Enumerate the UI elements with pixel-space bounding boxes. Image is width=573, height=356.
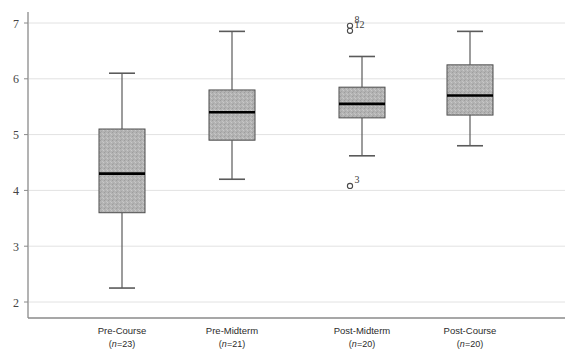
y-axis-ticks: 234567 [13, 17, 28, 310]
plot-area: 234567 8123 Pre-Course(n=23)Pre-Midterm(… [0, 0, 573, 356]
box-plot-item [209, 31, 255, 179]
x-category-label: Post-Course [444, 325, 497, 336]
box-iqr [339, 87, 385, 118]
y-tick-label: 3 [13, 240, 19, 254]
x-category-sublabel: (n=20) [349, 339, 375, 349]
outlier-marker [347, 183, 352, 188]
y-tick-label: 7 [13, 17, 19, 31]
box-iqr [447, 65, 493, 115]
outlier-label: 3 [355, 174, 360, 185]
box-plot-chart: 234567 8123 Pre-Course(n=23)Pre-Midterm(… [0, 0, 573, 356]
outlier-label: 12 [355, 19, 365, 30]
box-plot-item [99, 73, 145, 288]
x-category-label: Post-Midterm [334, 325, 391, 336]
box-iqr [99, 129, 145, 213]
box-plot-item [339, 56, 385, 155]
y-tick-label: 2 [13, 296, 19, 310]
box-plot-item [447, 31, 493, 145]
outlier-marker [347, 23, 352, 28]
chart-canvas: 234567 8123 Pre-Course(n=23)Pre-Midterm(… [0, 0, 573, 356]
x-category-label: Pre-Course [98, 325, 147, 336]
x-category-label: Pre-Midterm [206, 325, 258, 336]
x-category-sublabel: (n=23) [109, 339, 135, 349]
x-category-sublabel: (n=20) [457, 339, 483, 349]
x-category-sublabel: (n=21) [219, 339, 245, 349]
x-axis-labels: Pre-Course(n=23)Pre-Midterm(n=21)Post-Mi… [98, 325, 497, 349]
box-iqr [209, 90, 255, 140]
y-tick-label: 5 [13, 128, 19, 142]
outlier-marker [347, 28, 352, 33]
y-tick-label: 6 [13, 72, 19, 86]
y-tick-label: 4 [13, 184, 19, 198]
box-series [99, 31, 493, 288]
